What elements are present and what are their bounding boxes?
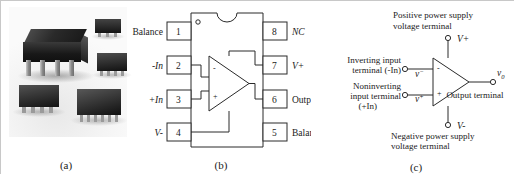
- inverting-input-terminal: [402, 66, 407, 71]
- pin-number-2: 2: [176, 61, 181, 71]
- noninverting-terminal-label-line3: (+In): [358, 101, 377, 111]
- opamp-symbol-diagram: Positive power supply voltage terminal -…: [311, 1, 514, 161]
- noninverting-input-terminal: [402, 92, 407, 97]
- noninverting-input-sign: +: [213, 92, 218, 101]
- soic-8-package-left: [19, 85, 59, 107]
- tssop-lead: [94, 115, 97, 122]
- positive-supply-label-line2: voltage terminal: [393, 21, 452, 31]
- panel-b: 1 2 3 4 8 7 6 5 Balance -In +In V- NC V+…: [131, 1, 311, 174]
- tssop-shadow: [70, 115, 128, 126]
- pin-label-6: Output: [292, 95, 311, 105]
- soic-package-right: [97, 53, 127, 71]
- positive-supply-symbol: V+: [457, 34, 469, 44]
- panel-c-caption: (c): [341, 161, 491, 173]
- sot-lead: [114, 33, 117, 37]
- soic-right-body: [97, 53, 127, 71]
- pin-label-2: -In: [152, 61, 163, 71]
- soic-right-lead: [100, 71, 103, 76]
- negative-supply-label-line2: voltage terminal: [391, 141, 450, 151]
- tssop-package: [77, 89, 121, 115]
- pin-number-7: 7: [272, 61, 277, 71]
- noninverting-input-sign: +: [437, 89, 442, 98]
- dip-pinout-diagram: 1 2 3 4 8 7 6 5 Balance -In +In V- NC V+…: [131, 1, 311, 161]
- dip-8-package: [23, 29, 85, 75]
- pin-label-1: Balance: [132, 27, 163, 37]
- inverting-input-sign: -: [437, 64, 440, 73]
- pin-number-3: 3: [176, 95, 181, 105]
- output-terminal-node: [490, 79, 495, 84]
- pin-label-8: NC: [291, 27, 305, 37]
- soic-left-lead: [31, 107, 35, 113]
- negative-supply-terminal: [445, 122, 450, 127]
- pin-number-8: 8: [272, 27, 277, 37]
- soic-left-lead: [22, 107, 26, 113]
- tssop-lead: [115, 115, 118, 122]
- soic-left-lead: [40, 107, 44, 113]
- inverting-terminal-label-line2: terminal (-In): [352, 65, 401, 75]
- sot-package: [95, 19, 121, 33]
- tssop-lead: [101, 115, 104, 122]
- panel-b-caption: (b): [131, 159, 311, 171]
- noninverting-terminal-label-line2: input terminal: [350, 91, 401, 101]
- soic-left-lead: [49, 107, 53, 113]
- dip-8-front: [23, 42, 81, 62]
- pin-label-3: +In: [149, 95, 164, 105]
- pin-number-6: 6: [272, 95, 277, 105]
- pin-label-7: V+: [292, 61, 304, 71]
- tssop-lead: [80, 115, 83, 122]
- inverting-input-symbol: v−: [415, 68, 424, 80]
- negative-supply-symbol: V-: [457, 121, 465, 131]
- noninverting-input-symbol: v+: [415, 93, 424, 105]
- ic-packages-photo: [9, 7, 127, 137]
- soic-left-shadow: [12, 107, 66, 117]
- soic-left-body: [19, 85, 59, 107]
- output-terminal-label: Output terminal: [446, 90, 504, 100]
- figure-container: (a) 1 2 3 4 8 7 6 5: [0, 0, 514, 174]
- soic-right-shadow: [92, 71, 132, 79]
- panel-c: Positive power supply voltage terminal -…: [311, 1, 514, 174]
- panel-a-caption: (a): [1, 159, 131, 171]
- dip-8-lead: [40, 60, 45, 76]
- dip-8-lead: [26, 60, 31, 76]
- panel-a: (a): [1, 1, 131, 174]
- positive-supply-terminal: [445, 35, 450, 40]
- output-voltage-symbol: v0: [497, 68, 505, 80]
- tssop-lead: [87, 115, 90, 122]
- inverting-terminal-label-line1: Inverting input: [347, 55, 401, 65]
- sot-body: [95, 19, 121, 33]
- pin-label-4: V-: [155, 128, 163, 138]
- inverting-input-sign: -: [213, 64, 216, 73]
- dip-8-lead: [69, 60, 74, 76]
- noninverting-terminal-label-line1: Noninverting: [353, 81, 401, 91]
- sot-lead: [106, 33, 109, 37]
- pin-number-4: 4: [176, 128, 181, 138]
- tssop-lead: [108, 115, 111, 122]
- negative-supply-label-line1: Negative power supply: [391, 131, 475, 141]
- pin-number-5: 5: [272, 128, 277, 138]
- soic-right-lead: [114, 71, 117, 76]
- positive-supply-label-line1: Positive power supply: [393, 10, 473, 20]
- sot-lead: [98, 33, 101, 37]
- tssop-body: [77, 89, 121, 115]
- pin-number-1: 1: [176, 27, 181, 37]
- soic-right-lead: [107, 71, 110, 76]
- pin-label-5: Balance: [292, 128, 311, 138]
- soic-right-lead: [121, 71, 124, 76]
- dip-8-lead: [55, 60, 60, 76]
